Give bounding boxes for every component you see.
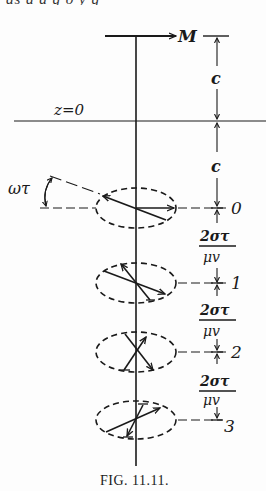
figure-caption: FIG. 11.11.: [100, 473, 169, 488]
level-0: ωτ 0: [8, 176, 242, 228]
svg-text:μv: μv: [203, 392, 220, 408]
magnetization-label: M: [177, 26, 198, 46]
level-1: 1: [96, 263, 242, 303]
level-0-label: 0: [231, 198, 242, 218]
dim-c-upper-label: c: [211, 69, 221, 88]
svg-text:2στ: 2στ: [199, 302, 230, 318]
svg-text:2στ: 2στ: [199, 373, 230, 389]
svg-text:μv: μv: [203, 249, 220, 265]
level-2-label: 2: [230, 342, 242, 362]
z0-label: z=0: [53, 101, 84, 119]
fraction-1-2: 2στ μv: [199, 285, 236, 350]
fraction-0-1: 2στ μv: [199, 210, 236, 282]
fraction-2-3: 2στ μv: [199, 354, 236, 418]
svg-text:2στ: 2στ: [199, 228, 230, 244]
diagram-canvas: M z=0 c c ωτ: [0, 0, 266, 491]
level-1-label: 1: [231, 273, 242, 293]
level-3-label: 3: [224, 416, 235, 436]
angle-label: ωτ: [8, 179, 31, 198]
dim-c-lower-label: c: [211, 157, 221, 176]
figure-page: as a a g o y g M z=0 c c: [0, 0, 266, 491]
svg-text:μv: μv: [203, 323, 220, 339]
